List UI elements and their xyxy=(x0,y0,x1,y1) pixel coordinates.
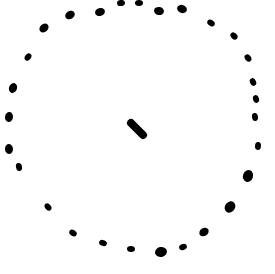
center-dash xyxy=(131,123,143,135)
ring-dot xyxy=(5,144,14,155)
ring-dot xyxy=(7,82,18,94)
ring-dot xyxy=(252,94,260,103)
ring-dot xyxy=(64,9,77,21)
ring-dot xyxy=(249,77,258,87)
ring-dot xyxy=(154,246,168,258)
ring-dot xyxy=(255,142,262,150)
ring-dot xyxy=(178,243,188,252)
ring-dot xyxy=(206,18,216,27)
ring-dot xyxy=(135,0,143,6)
ring-dot xyxy=(23,52,33,62)
ring-dot xyxy=(251,113,258,122)
ring-dot xyxy=(222,199,237,215)
ring-dot xyxy=(198,226,211,238)
ring-dot xyxy=(153,6,164,16)
ring-dot xyxy=(38,22,51,35)
ring-dot xyxy=(15,162,23,171)
ring-dot xyxy=(241,169,254,184)
ring-dot xyxy=(4,111,13,122)
ring-dot xyxy=(68,228,78,237)
ring-dot xyxy=(117,0,126,6)
ring-dot xyxy=(98,239,107,247)
dotted-circle-drawing xyxy=(0,0,275,274)
ring-dot xyxy=(229,31,239,41)
ring-dot xyxy=(94,7,106,18)
ring-dot xyxy=(243,53,253,63)
ring-dot xyxy=(127,246,135,252)
ring-dot xyxy=(176,4,188,15)
ring-dot xyxy=(43,202,53,212)
drawing-canvas xyxy=(0,0,275,274)
